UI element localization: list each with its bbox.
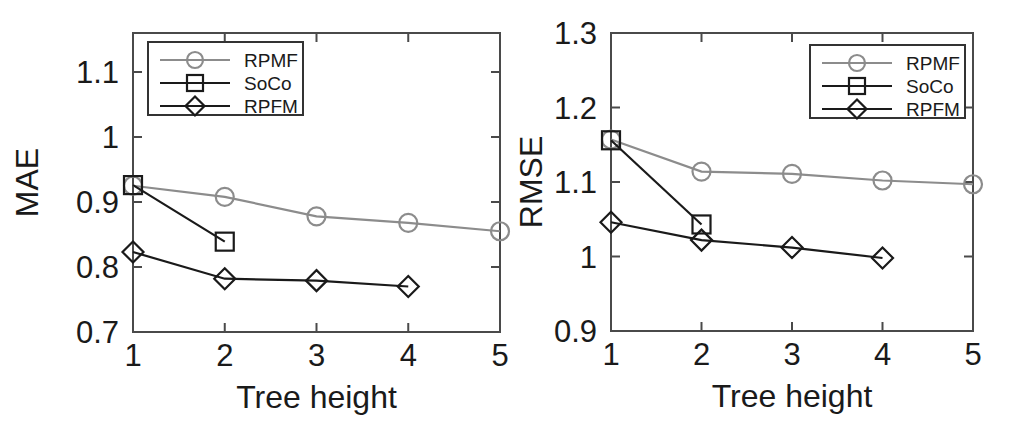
- y-tick-label: 1.1: [554, 165, 597, 200]
- series-line-rpfm: [133, 252, 408, 286]
- legend-label-rpfm: RPFM: [244, 96, 298, 117]
- series-rpmf: [124, 177, 509, 241]
- y-tick-label: 1.2: [554, 91, 597, 126]
- series-rpfm: [123, 242, 419, 297]
- x-tick-label: 2: [216, 338, 233, 373]
- x-tick-label: 5: [491, 338, 508, 373]
- legend-label-soco: SoCo: [244, 73, 292, 94]
- y-axis-title: MAE: [9, 148, 45, 217]
- x-tick-label: 1: [602, 337, 619, 372]
- y-axis-title: RMSE: [513, 136, 549, 228]
- y-tick-label: 1.1: [76, 55, 119, 90]
- legend-label-rpmf: RPMF: [906, 53, 960, 74]
- mae-plot-svg: 0.70.80.911.112345Tree heightMAERPMFSoCo…: [0, 0, 512, 422]
- x-tick-label: 5: [964, 337, 981, 372]
- legend-label-rpfm: RPFM: [906, 99, 960, 120]
- legend-label-soco: SoCo: [906, 76, 954, 97]
- y-tick-label: 0.9: [554, 314, 597, 349]
- y-tick-label: 0.8: [76, 250, 119, 285]
- chart-panel-mae: 0.70.80.911.112345Tree heightMAERPMFSoCo…: [0, 0, 512, 422]
- legend: RPMFSoCoRPFM: [148, 42, 303, 117]
- x-tick-label: 4: [874, 337, 891, 372]
- y-tick-label: 1: [580, 240, 597, 275]
- y-tick-label: 0.7: [76, 315, 119, 350]
- rmse-plot-svg: 0.911.11.21.312345Tree heightRMSERPMFSoC…: [512, 0, 1025, 422]
- legend: RPMFSoCoRPFM: [810, 45, 965, 120]
- chart-panel-rmse: 0.911.11.21.312345Tree heightRMSERPMFSoC…: [512, 0, 1025, 422]
- series-line-rpfm: [611, 222, 883, 258]
- series-line-rpmf: [611, 140, 973, 185]
- x-tick-label: 3: [308, 338, 325, 373]
- legend-label-rpmf: RPMF: [244, 50, 298, 71]
- figure-two-panel-line-charts: 0.70.80.911.112345Tree heightMAERPMFSoCo…: [0, 0, 1025, 422]
- x-tick-label: 2: [693, 337, 710, 372]
- x-tick-label: 3: [783, 337, 800, 372]
- y-tick-label: 1: [102, 120, 119, 155]
- x-axis-title: Tree height: [712, 378, 873, 414]
- x-tick-label: 4: [400, 338, 417, 373]
- series-rpfm: [601, 212, 894, 269]
- series-line-soco: [611, 140, 702, 224]
- series-line-soco: [133, 185, 225, 242]
- x-tick-label: 1: [124, 338, 141, 373]
- x-axis-title: Tree height: [236, 379, 397, 415]
- y-tick-label: 1.3: [554, 16, 597, 51]
- y-tick-label: 0.9: [76, 185, 119, 220]
